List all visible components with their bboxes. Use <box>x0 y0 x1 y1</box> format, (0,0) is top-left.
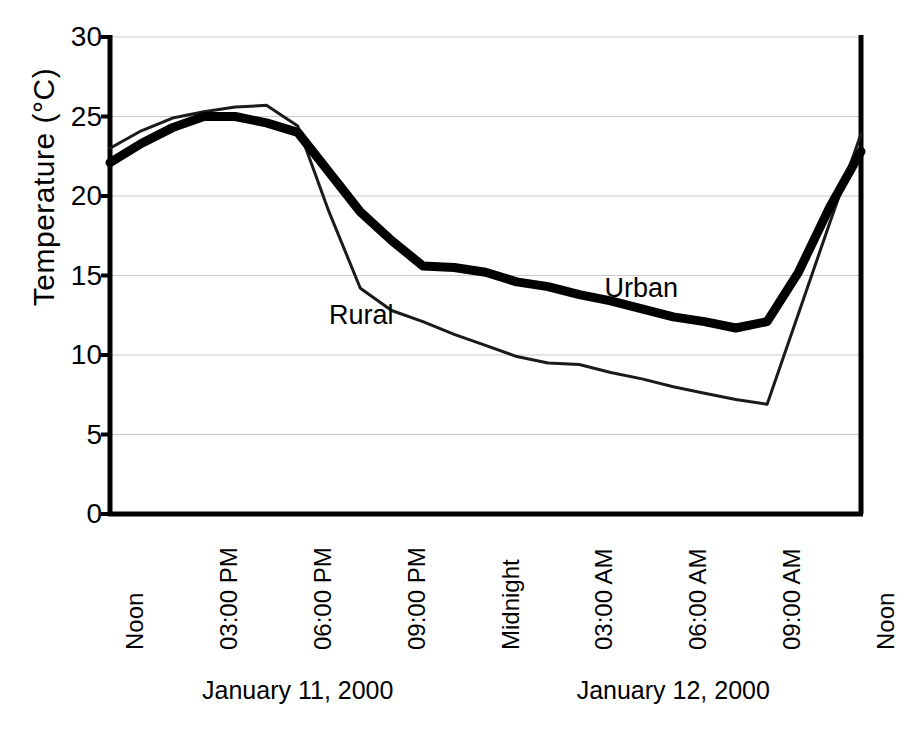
x-tick-label: 09:00 AM <box>778 549 806 650</box>
date-group-label: January 12, 2000 <box>553 676 793 705</box>
y-tick-label: 0 <box>86 500 102 528</box>
x-tick-label: Noon <box>872 593 899 650</box>
y-tick-label: 30 <box>71 23 102 51</box>
x-tick-label: 03:00 AM <box>590 549 618 650</box>
y-tick-label: 25 <box>71 103 102 131</box>
x-tick-label: Noon <box>121 593 149 650</box>
x-tick-label: 06:00 AM <box>684 549 712 650</box>
x-tick-label: 09:00 PM <box>403 547 431 650</box>
series-line-urban <box>110 117 861 328</box>
x-tick-label: 03:00 PM <box>215 547 243 650</box>
series-label-urban: Urban <box>604 273 678 304</box>
y-tick-label: 15 <box>71 262 102 290</box>
y-tick-label: 5 <box>86 421 102 449</box>
series-label-rural: Rural <box>329 300 394 331</box>
y-tick-label: 20 <box>71 182 102 210</box>
x-tick-label: 06:00 PM <box>309 547 337 650</box>
gridlines <box>110 37 861 435</box>
series-line-rural <box>110 105 861 404</box>
x-tick-label: Midnight <box>497 559 525 650</box>
y-axis-title: Temperature (°C) <box>27 47 61 327</box>
y-tick-label: 10 <box>71 341 102 369</box>
date-group-label: January 11, 2000 <box>178 676 418 705</box>
